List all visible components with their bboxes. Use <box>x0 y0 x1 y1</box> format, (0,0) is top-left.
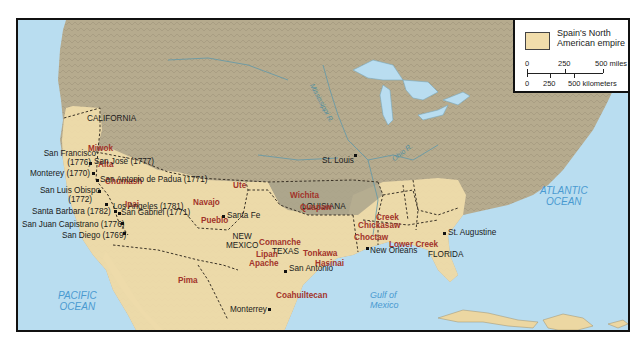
scale-bar-line <box>527 73 603 74</box>
city-marker-st-augustine <box>443 232 446 235</box>
place-san-gabriel: San Gabriel (1771) <box>121 208 190 217</box>
tribe-wichita: Wichita <box>290 191 319 200</box>
tribe-lipan-apache: Lipan Apache <box>249 250 279 268</box>
tribe-quapaw: Quapaw <box>300 203 332 212</box>
place-san-jose: San José (1777) <box>94 157 154 166</box>
place-san-antonio: San Antonio <box>289 264 333 273</box>
city-marker-san-diego <box>123 232 126 235</box>
scale-tick <box>527 69 528 77</box>
tribe-choctaw: Choctaw <box>354 233 388 242</box>
scale-mile-500: 500 miles <box>595 59 627 68</box>
san-luis-obispo-line1: San Luis Obispo <box>20 186 100 195</box>
city-marker-monterey <box>92 172 95 175</box>
tribe-chickasaw: Chickasaw <box>358 221 400 230</box>
place-santa-barbara: Santa Barbara (1782) <box>32 207 111 216</box>
new-mexico-line1: NEW <box>226 232 258 241</box>
place-monterrey: Monterrey <box>230 305 267 314</box>
place-san-antonio-padua: San Antonio de Padua (1771) <box>100 175 207 184</box>
scale-tick <box>565 69 566 73</box>
san-francisco-line2: (1776) <box>21 158 96 167</box>
scale-tick <box>550 74 551 78</box>
legend-label-line2: American empire <box>557 38 625 48</box>
scale-tick <box>574 74 575 78</box>
tribe-tonkawa: Tonkawa <box>303 249 337 258</box>
tribe-ute: Ute <box>233 181 246 190</box>
place-san-juan-capistrano: San Juan Capistrano (1776) <box>22 220 124 229</box>
tribe-coahuiltecan: Coahuiltecan <box>276 291 327 300</box>
caribbean-islands <box>438 310 628 330</box>
pacific-ocean-line1: PACIFIC <box>58 290 97 301</box>
city-marker-santa-barbara <box>105 203 108 206</box>
city-marker-san-luis-obispo <box>98 190 101 193</box>
map-legend: Spain's North American empire 0 250 500 … <box>513 18 630 93</box>
place-santa-fe: Santa Fe <box>227 211 260 220</box>
place-san-francisco: San Francisco (1776) <box>21 149 96 167</box>
scale-tick <box>603 69 604 73</box>
scale-km-250: 250 <box>543 79 556 88</box>
tribe-pima: Pima <box>178 276 198 285</box>
tribe-navajo: Navajo <box>193 198 220 207</box>
scale-km-0: 0 <box>525 79 529 88</box>
region-new-mexico: NEW MEXICO <box>226 232 258 250</box>
gulf-line1: Gulf of <box>370 290 399 300</box>
city-marker-new-orleans <box>366 247 369 250</box>
city-marker-los-angeles <box>114 210 117 213</box>
lipan-line1: Lipan <box>249 250 279 259</box>
san-luis-obispo-line2: (1772) <box>20 195 100 204</box>
city-marker-monterrey <box>268 308 271 311</box>
scale-km-500: 500 kilometers <box>568 79 617 88</box>
scale-mile-0: 0 <box>525 59 529 68</box>
atlantic-ocean-line1: ATLANTIC <box>540 185 588 196</box>
new-mexico-line2: MEXICO <box>226 241 258 250</box>
city-marker-santa-fe <box>222 215 225 218</box>
region-california: CALIFORNIA <box>87 114 136 123</box>
city-marker-san-antonio-padua <box>96 179 99 182</box>
place-san-luis-obispo: San Luis Obispo (1772) <box>20 186 100 204</box>
place-st-louis: St. Louis <box>322 156 354 165</box>
lipan-line2: Apache <box>249 259 279 268</box>
place-new-orleans: New Orleans <box>370 246 417 255</box>
tribe-comanche: Comanche <box>259 238 301 247</box>
san-francisco-line1: San Francisco <box>21 149 96 158</box>
place-monterey-ca: Monterey (1770) <box>30 169 90 178</box>
atlantic-ocean-label: ATLANTIC OCEAN <box>540 185 588 207</box>
legend-empire-label: Spain's North American empire <box>557 28 625 48</box>
empire-swatch <box>525 32 550 50</box>
region-florida: FLORIDA <box>428 250 464 259</box>
gulf-of-mexico-label: Gulf of Mexico <box>370 290 399 310</box>
city-marker-san-francisco <box>89 162 92 165</box>
city-marker-san-antonio <box>284 270 287 273</box>
legend-label-line1: Spain's North <box>557 28 625 38</box>
place-san-diego: San Diego (1769) <box>62 231 126 240</box>
pacific-ocean-line2: OCEAN <box>58 301 97 312</box>
city-marker-san-juan-capistrano <box>121 222 124 225</box>
scale-mile-250: 250 <box>558 59 571 68</box>
pacific-ocean-label: PACIFIC OCEAN <box>58 290 97 312</box>
place-st-augustine: St. Augustine <box>448 228 496 237</box>
atlantic-ocean-line2: OCEAN <box>540 196 588 207</box>
city-marker-st-louis <box>354 154 357 157</box>
gulf-line2: Mexico <box>370 300 399 310</box>
